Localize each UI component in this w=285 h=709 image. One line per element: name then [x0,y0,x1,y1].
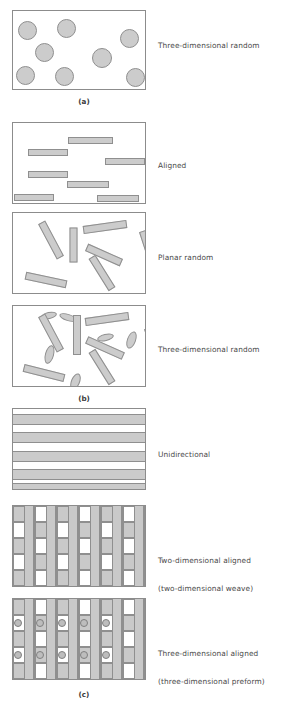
unidirectional-fiber-band [13,483,145,490]
panel-c-caption: (c) [64,690,104,699]
fiber-rect [28,171,68,178]
fiber-rect [70,228,78,263]
fiber-ellipse [68,372,83,387]
particle-circle [16,66,35,85]
panel-c-weave-label-line2: (two-dimensional weave) [158,584,253,593]
fiber-rect [105,158,145,165]
weave-vertical-tow [46,599,55,679]
panel-c-unidirectional-frame [12,408,146,490]
composite-reinforcement-figure: Three-dimensional random (a) Aligned Pla… [0,0,285,709]
unidirectional-fiber-band [13,469,145,480]
weave-vertical-tow [90,599,99,679]
particle-circle [120,29,139,48]
weave-vertical-tow [134,599,143,679]
particle-circle [55,67,74,86]
fiber-rect [14,194,54,201]
fiber-rect [97,195,139,202]
particle-circle [57,19,76,38]
panel-c-two-dimensional-weave-label: Two-dimensional aligned (two-dimensional… [158,537,253,612]
panel-b-three-dimensional-random-label: Three-dimensional random [158,345,260,354]
fiber-rect [139,230,146,271]
particle-circle [126,68,145,87]
panel-c-preform-label-line2: (three-dimensional preform) [158,677,265,686]
panel-c-weave-label-line1: Two-dimensional aligned [158,556,253,565]
panel-c-three-dimensional-preform-frame [12,598,146,680]
weave-vertical-tow [90,506,99,586]
fiber-ellipse [124,330,139,350]
fiber-rect [38,220,64,259]
particle-circle [35,43,54,62]
panel-b-planar-random-frame [12,212,146,294]
fiber-rect [73,315,81,355]
panel-b-aligned-frame [12,122,146,204]
weave-vertical-tow [68,506,77,586]
panel-b-planar-random-label: Planar random [158,253,213,262]
fiber-rect [28,149,68,156]
panel-c-preform-label-line1: Three-dimensional aligned [158,649,265,658]
panel-c-unidirectional-label: Unidirectional [158,450,210,459]
fiber-ellipse [43,344,57,365]
fiber-rect [83,220,128,234]
fiber-rect [144,327,146,368]
panel-b-aligned-label: Aligned [158,161,186,170]
weave-vertical-tow [24,506,33,586]
weave-vertical-tow [112,599,121,679]
panel-a-label: Three-dimensional random [158,41,260,50]
fiber-rect [85,312,130,326]
weave-vertical-tow [24,599,33,679]
weave-vertical-tow [112,506,121,586]
fiber-rect [67,181,109,188]
unidirectional-fiber-band [13,414,145,425]
particle-circle [92,48,112,68]
fiber-rect [68,137,113,144]
fiber-rect [23,364,66,382]
panel-b-caption: (b) [64,394,104,403]
particle-circle [18,21,37,40]
weave-vertical-tow [134,506,143,586]
panel-c-three-dimensional-preform-label: Three-dimensional aligned (three-dimensi… [158,630,265,705]
panel-c-two-dimensional-weave-frame [12,505,146,587]
unidirectional-fiber-band [13,432,145,443]
unidirectional-fiber-band [13,451,145,462]
weave-vertical-tow [68,599,77,679]
panel-a-caption: (a) [64,97,104,106]
panel-a-frame [12,10,146,90]
weave-vertical-tow [46,506,55,586]
fiber-rect [25,272,68,289]
panel-b-three-dimensional-random-frame [12,305,146,387]
